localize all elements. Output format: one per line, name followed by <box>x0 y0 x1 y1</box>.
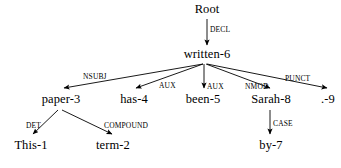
dependency-tree-figure: Rootwritten-6paper-3has-4been-5Sarah-8.-… <box>0 0 341 168</box>
edge-label-punct: PUNCT <box>285 75 310 83</box>
edge-label-aux: AUX <box>207 83 224 91</box>
edge-label-compound: COMPOUND <box>104 122 148 130</box>
tree-node-written: written-6 <box>184 48 231 61</box>
tree-node-this: This-1 <box>14 139 47 152</box>
tree-node-paper: paper-3 <box>42 93 81 106</box>
tree-node-by: by-7 <box>259 139 282 152</box>
tree-node-has: has-4 <box>120 93 148 106</box>
tree-node-root: Root <box>195 3 220 16</box>
edge-label-det: DET <box>26 122 41 130</box>
edge-label-nsubj: NSUBJ <box>83 73 107 81</box>
tree-node-sarah: Sarah-8 <box>251 93 291 106</box>
tree-node-term: term-2 <box>96 139 130 152</box>
edge-label-decl: DECL <box>210 26 230 34</box>
tree-node-punct: .-9 <box>321 93 335 106</box>
edge-label-aux: AUX <box>159 82 176 90</box>
tree-node-been: been-5 <box>186 93 221 106</box>
edge-label-nmod: NMOD <box>245 83 269 91</box>
edge-line-group <box>33 19 327 134</box>
edge-label-case: CASE <box>273 120 293 128</box>
